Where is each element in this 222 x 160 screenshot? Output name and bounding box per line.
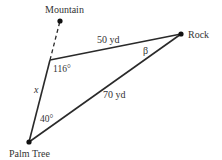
palm-tree-label: Palm Tree (9, 148, 50, 159)
palm-tree-point (26, 139, 31, 144)
triangle-diagram: Mountain Rock Palm Tree 50 yd 70 yd x 11… (0, 0, 222, 160)
side-label-x: x (33, 84, 39, 95)
mountain-dashed-line (50, 21, 60, 60)
side-palm-rock (29, 34, 181, 142)
mountain-label: Mountain (45, 4, 84, 15)
side-label-70yd: 70 yd (103, 89, 126, 100)
mountain-point (57, 18, 62, 23)
side-label-50yd: 50 yd (97, 34, 120, 45)
rock-point (178, 31, 183, 36)
angle-label-beta: β (143, 45, 148, 56)
angle-label-palm: 40° (40, 114, 54, 124)
rock-label: Rock (188, 29, 209, 40)
angle-label-vertex: 116° (53, 64, 71, 74)
